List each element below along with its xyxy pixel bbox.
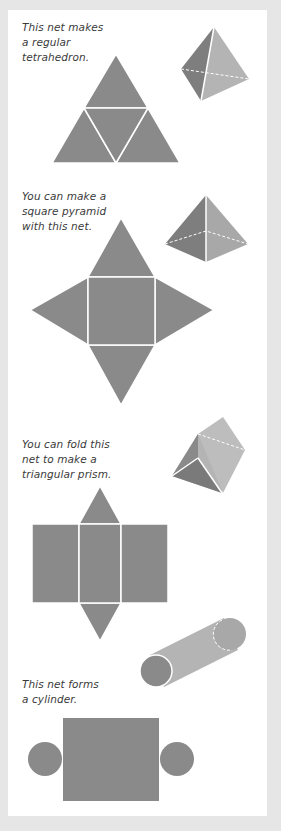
cylinder-solid	[140, 618, 246, 687]
tetrahedron-solid	[181, 27, 249, 101]
diagram-canvas	[0, 0, 281, 831]
square-pyramid-solid	[165, 195, 248, 262]
cylinder-net	[28, 718, 194, 801]
tetrahedron-net	[52, 54, 180, 163]
triangular-prism-solid	[172, 417, 245, 493]
triangular-prism-net	[32, 486, 168, 641]
